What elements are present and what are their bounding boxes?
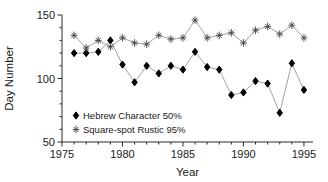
x-tick-label: 1980 [110, 148, 134, 160]
x-tick-label: 1985 [171, 148, 195, 160]
data-point-asterisk [155, 32, 162, 40]
data-point-asterisk [276, 30, 283, 38]
data-point-asterisk [204, 34, 211, 42]
y-tick-label: 50 [43, 136, 55, 148]
data-point-asterisk [119, 34, 126, 42]
data-point-diamond [156, 70, 161, 77]
data-point-asterisk [143, 40, 150, 48]
data-point-diamond [301, 86, 306, 93]
legend-asterisk-icon [73, 126, 80, 134]
data-point-diamond [241, 89, 246, 96]
data-point-diamond [71, 50, 76, 57]
data-point-diamond [289, 60, 294, 67]
data-point-asterisk [216, 32, 223, 40]
legend-label: Square-spot Rustic 95% [83, 124, 186, 135]
data-point-asterisk [95, 37, 102, 45]
data-point-asterisk [167, 35, 174, 43]
data-point-diamond [108, 37, 113, 44]
data-point-asterisk [192, 16, 199, 24]
data-point-asterisk [131, 39, 138, 47]
series-line-0 [74, 40, 304, 112]
y-tick-label: 100 [37, 73, 55, 85]
y-axis-title: Day Number [3, 46, 15, 111]
x-axis-title: Year [176, 166, 199, 178]
data-point-diamond [96, 48, 101, 55]
data-point-asterisk [107, 43, 114, 51]
x-tick-label: 1995 [292, 148, 316, 160]
data-point-asterisk [264, 23, 271, 31]
data-point-asterisk [228, 29, 235, 37]
data-point-diamond [168, 62, 173, 69]
legend-diamond-icon [73, 112, 78, 119]
legend-label: Hebrew Character 50% [83, 110, 182, 121]
chart-canvas: 5010015019751980198519901995Day NumberYe… [0, 0, 328, 182]
data-point-diamond [217, 66, 222, 73]
data-point-diamond [253, 77, 258, 84]
data-point-diamond [229, 91, 234, 98]
moth-phenology-chart: 5010015019751980198519901995Day NumberYe… [0, 0, 328, 182]
x-tick-label: 1990 [231, 148, 255, 160]
y-tick-label: 150 [37, 9, 55, 21]
x-tick-label: 1975 [50, 148, 74, 160]
data-point-diamond [265, 80, 270, 87]
data-point-diamond [277, 109, 282, 116]
